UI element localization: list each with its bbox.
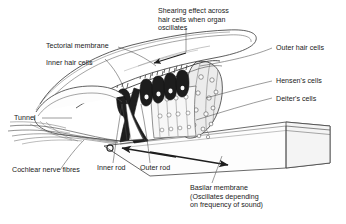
label-inner-hair-cells: Inner hair cells bbox=[46, 59, 92, 68]
label-basilar-membrane: Basilar membrane (Oscillates depending o… bbox=[190, 184, 263, 210]
figure-canvas: Shearing effect across hair cells when o… bbox=[0, 0, 346, 224]
label-cochlear-nerve-fibres: Cochlear nerve fibres bbox=[12, 166, 80, 175]
label-inner-rod: Inner rod bbox=[97, 164, 126, 173]
organ-of-corti-illustration bbox=[0, 0, 346, 224]
label-tunnel: Tunnel bbox=[14, 114, 36, 123]
label-hensens-cells: Hensen's cells bbox=[276, 77, 322, 86]
label-deiters-cells: Deiter's cells bbox=[276, 95, 316, 104]
label-outer-hair-cells: Outer hair cells bbox=[276, 44, 324, 53]
cochlear-nerve-fibres-bundle bbox=[8, 122, 120, 144]
label-outer-rod: Outer rod bbox=[140, 164, 170, 173]
label-tectorial-membrane: Tectorial membrane bbox=[46, 42, 109, 51]
label-shearing-effect: Shearing effect across hair cells when o… bbox=[158, 7, 229, 33]
